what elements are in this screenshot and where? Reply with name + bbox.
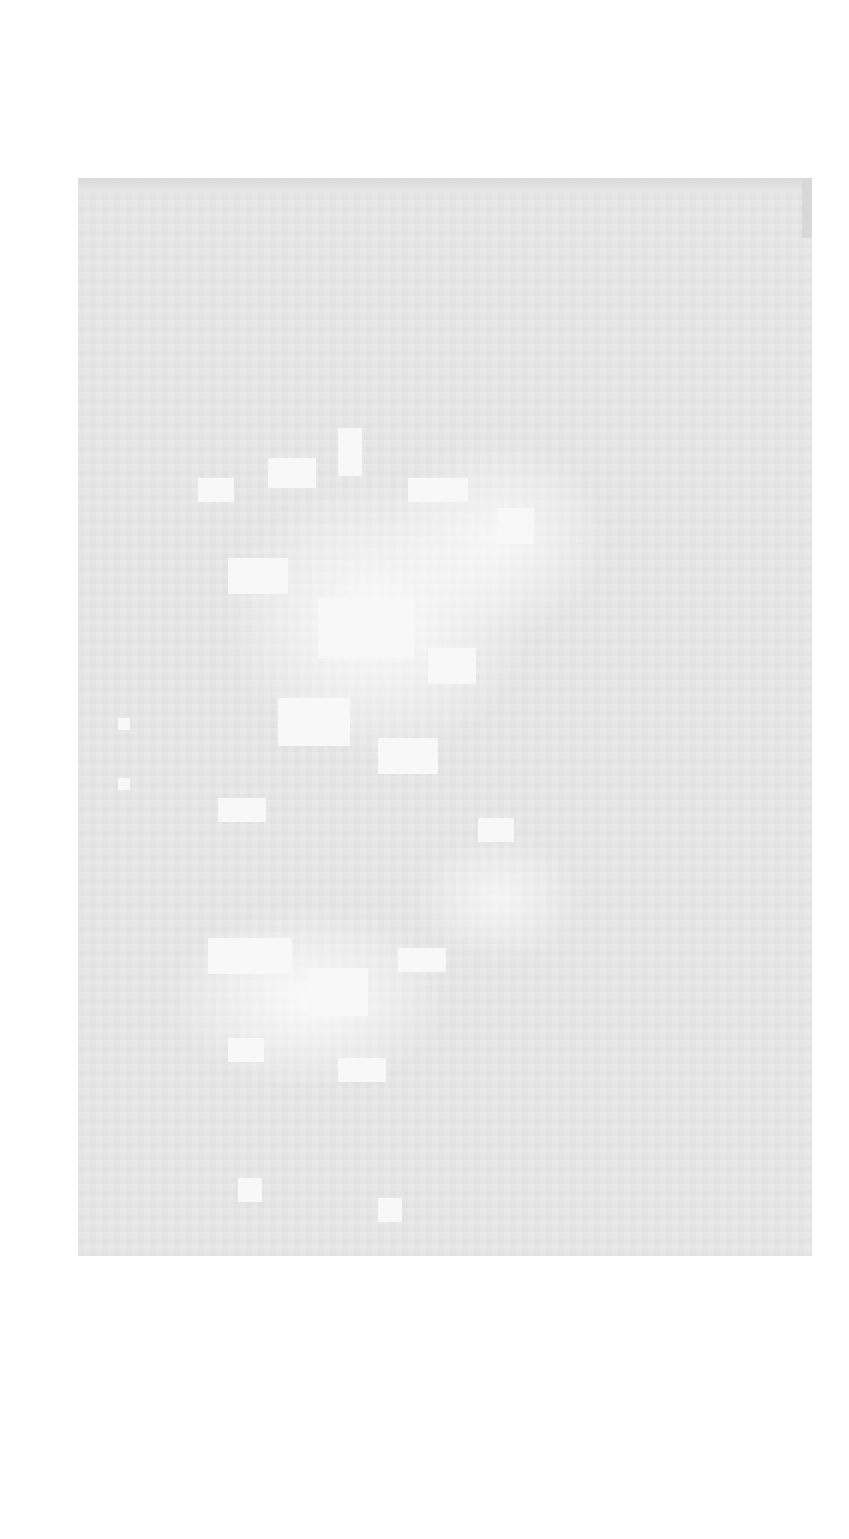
scanned-page xyxy=(78,178,812,1256)
page-text xyxy=(118,218,772,1216)
